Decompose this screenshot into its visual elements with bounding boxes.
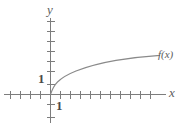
coordinate-plane-svg: y x f(x) 1 1 bbox=[0, 0, 185, 130]
y-tick-label-one: 1 bbox=[38, 71, 45, 86]
math-graph-figure: y x f(x) 1 1 bbox=[0, 0, 185, 130]
x-tick-label-one: 1 bbox=[56, 98, 63, 113]
y-axis-label: y bbox=[45, 2, 53, 17]
function-curve bbox=[51, 55, 161, 94]
x-axis-label: x bbox=[168, 85, 175, 100]
curve-label-fx: f(x) bbox=[158, 48, 174, 61]
